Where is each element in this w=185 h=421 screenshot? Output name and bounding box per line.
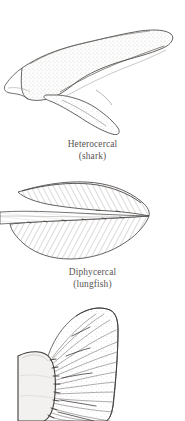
- caption-common-heterocercal: (shark): [0, 151, 185, 163]
- caption-term-diphycercal: Diphycercal: [0, 267, 185, 279]
- caption-heterocercal: Heterocercal (shark): [0, 139, 185, 162]
- homocercal-tail-illustration: [0, 300, 185, 421]
- heterocercal-tail-illustration: [0, 0, 185, 138]
- caption-diphycercal: Diphycercal (lungfish): [0, 267, 185, 290]
- diphycercal-tail-illustration: [0, 172, 185, 268]
- figure-plate: Heterocercal (shark): [0, 0, 185, 421]
- caption-term-heterocercal: Heterocercal: [0, 139, 185, 151]
- caption-common-diphycercal: (lungfish): [0, 279, 185, 291]
